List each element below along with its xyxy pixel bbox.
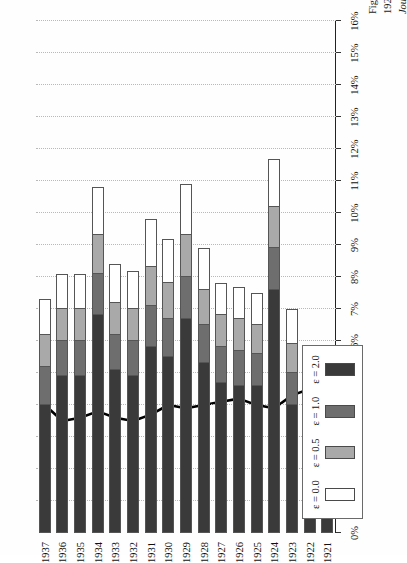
bar-segment <box>74 376 86 533</box>
legend-item-epsilon-2-0: ε = 2.0 <box>310 355 355 384</box>
bar-row <box>286 21 298 533</box>
category-label-1932: 1932 <box>128 542 139 563</box>
bar-row <box>162 21 174 533</box>
legend-swatch <box>325 405 355 418</box>
bar-row <box>198 21 210 533</box>
bar-row <box>109 21 121 533</box>
bar-row <box>127 21 139 533</box>
category-label-1934: 1934 <box>92 542 103 563</box>
legend-label: ε = 1.0 <box>310 397 321 426</box>
category-label-1930: 1930 <box>163 542 174 563</box>
category-label-1937: 1937 <box>39 542 50 563</box>
category-label-1928: 1928 <box>198 542 209 563</box>
rotated-figure-body: 0%1%2%3%4%5%6%7%8%9%10%11%12%13%14%15%16… <box>26 0 381 555</box>
bar-segment <box>215 283 227 315</box>
category-label-1936: 1936 <box>57 542 68 563</box>
bar-segment <box>286 344 298 373</box>
bar-segment <box>286 405 298 533</box>
bar-row <box>56 21 68 533</box>
bar-row <box>39 21 51 533</box>
bar-segment <box>56 341 68 376</box>
bar-segment <box>180 277 192 319</box>
bar-segment <box>198 325 210 363</box>
x-axis-tick <box>336 180 341 181</box>
category-label-1933: 1933 <box>110 542 121 563</box>
legend-item-epsilon-0-0: ε = 0.0 <box>310 480 355 509</box>
bar-segment <box>56 376 68 533</box>
x-axis-tick-label: 9% <box>349 238 360 252</box>
category-label-1923: 1923 <box>286 542 297 563</box>
journal-name: Journal of Economic History <box>397 0 407 14</box>
x-axis-tick <box>336 212 341 213</box>
bar-segment <box>251 293 263 325</box>
bar-segment <box>74 309 86 341</box>
bar-segment <box>145 267 157 305</box>
x-axis-tick <box>336 116 341 117</box>
bar-segment <box>233 287 245 319</box>
bar-row <box>251 21 263 533</box>
chart-legend: ε = 0.0ε = 0.5ε = 1.0ε = 2.0 <box>302 345 363 519</box>
bar-row <box>74 21 86 533</box>
bar-segment <box>127 271 139 309</box>
legend-item-epsilon-0-5: ε = 0.5 <box>310 439 355 468</box>
bar-segment <box>198 363 210 533</box>
bar-segment <box>162 357 174 533</box>
x-axis-tick-label: 8% <box>349 270 360 284</box>
bar-segment <box>180 184 192 235</box>
bar-segment <box>145 219 157 267</box>
bar-row <box>233 21 245 533</box>
figure-number: Figure 5.4: <box>367 0 378 14</box>
bar-row <box>145 21 157 533</box>
legend-swatch <box>325 363 355 376</box>
bar-segment <box>233 386 245 533</box>
bar-segment <box>198 248 210 290</box>
bar-segment <box>268 207 280 249</box>
bar-segment <box>39 335 51 367</box>
bar-segment <box>198 290 210 325</box>
x-axis-tick <box>336 532 341 533</box>
bar-segment <box>215 347 227 382</box>
category-label-1926: 1926 <box>233 542 244 563</box>
x-axis-tick <box>336 340 341 341</box>
bar-segment <box>92 235 104 273</box>
x-axis-tick <box>336 52 341 53</box>
bar-row <box>92 21 104 533</box>
bar-segment <box>92 187 104 235</box>
bar-segment <box>251 354 263 386</box>
bar-segment <box>215 315 227 347</box>
bar-row <box>268 21 280 533</box>
bar-segment <box>56 274 68 309</box>
bar-segment <box>286 309 298 344</box>
bar-segment <box>162 283 174 318</box>
x-axis-tick-label: 13% <box>349 107 360 126</box>
bar-segment <box>127 376 139 533</box>
bar-segment <box>321 519 333 533</box>
bar-row <box>215 21 227 533</box>
category-label-1929: 1929 <box>181 542 192 563</box>
bar-segment <box>92 274 104 316</box>
x-axis-tick-label: 16% <box>349 11 360 30</box>
category-label-1935: 1935 <box>75 542 86 563</box>
bar-segment <box>251 386 263 533</box>
bar-segment <box>127 309 139 341</box>
bar-segment <box>145 347 157 533</box>
bar-segment <box>215 383 227 533</box>
bar-segment <box>233 351 245 386</box>
legend-label: ε = 0.5 <box>310 439 321 468</box>
x-axis-tick-label: 14% <box>349 75 360 94</box>
x-axis-tick-label: 10% <box>349 203 360 222</box>
bar-segment <box>233 319 245 351</box>
bar-segment <box>268 290 280 533</box>
bar-segment <box>109 303 121 335</box>
x-axis-tick-label: 12% <box>349 139 360 158</box>
bar-segment <box>39 367 51 405</box>
x-axis-tick <box>336 308 341 309</box>
bar-segment <box>162 239 174 284</box>
bar-segment <box>74 274 86 309</box>
bar-segment <box>127 341 139 376</box>
x-axis-tick-label: 15% <box>349 43 360 62</box>
x-axis-tick <box>336 276 341 277</box>
category-label-1925: 1925 <box>251 542 262 563</box>
legend-item-epsilon-1-0: ε = 1.0 <box>310 397 355 426</box>
